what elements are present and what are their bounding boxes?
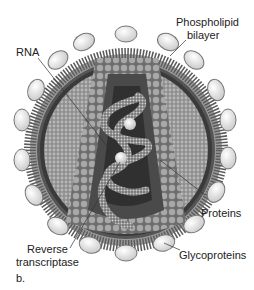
- reverse-transcriptase-enzyme: [115, 152, 127, 164]
- proteins-label: Proteins: [201, 207, 241, 219]
- reverse-transcriptase-enzyme: [124, 118, 136, 130]
- glycoproteins-label: Glycoproteins: [179, 249, 246, 261]
- reverse-transcriptase-label-line2: transcriptase: [16, 256, 79, 268]
- reverse-transcriptase-label-line1: Reverse: [27, 243, 68, 255]
- rna-label: RNA: [16, 46, 39, 58]
- phospholipid-label-line1: Phospholipid: [176, 16, 239, 28]
- phospholipid-label-line2: bilayer: [187, 29, 219, 41]
- panel-label: b.: [16, 272, 25, 284]
